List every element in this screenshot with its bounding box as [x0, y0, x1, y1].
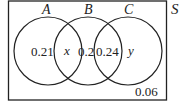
set-b-label: B [84, 2, 93, 17]
set-c-label: C [124, 2, 134, 17]
set-a-label: A [41, 2, 51, 17]
region-b-and-c: 0.24 [96, 44, 119, 59]
region-b-only: 0.2 [78, 44, 94, 59]
universal-set-label: S [171, 1, 179, 17]
region-a-only: 0.21 [31, 44, 54, 59]
venn-diagram: S A B C 0.21 x 0.2 0.24 y 0.06 [0, 0, 186, 106]
region-outside: 0.06 [135, 84, 158, 99]
region-c-only: y [126, 43, 134, 58]
region-a-and-b: x [63, 43, 70, 58]
